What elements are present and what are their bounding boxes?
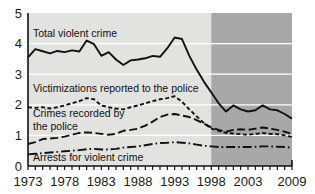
x-tick-label-2009: 2009 <box>278 174 307 189</box>
y-tick-label-2: 2 <box>15 97 22 112</box>
x-tick-label-1993: 1993 <box>160 174 189 189</box>
x-tick-label-1973: 1973 <box>14 174 43 189</box>
shaded-region <box>211 13 292 166</box>
annotation-crimes-recorded-line2: the police <box>33 120 78 132</box>
x-axis-tick-labels: 19731978198319881993199820032009 <box>14 174 307 189</box>
y-tick-label-4: 4 <box>15 36 22 51</box>
chart-canvas: 012345 19731978198319881993199820032009 … <box>0 0 315 194</box>
crime-rate-line-chart: 012345 19731978198319881993199820032009 … <box>0 0 315 194</box>
annotation-crimes-recorded-line1: Crimes recorded by <box>33 107 125 119</box>
y-tick-label-5: 5 <box>15 6 22 21</box>
annotation-arrests-for-violent-crime: Arrests for violent crime <box>33 151 143 163</box>
y-tick-label-1: 1 <box>15 128 22 143</box>
y-tick-label-3: 3 <box>15 67 22 82</box>
annotation-total-violent-crime: Total violent crime <box>33 27 117 39</box>
x-tick-label-2003: 2003 <box>234 174 263 189</box>
y-axis-tick-labels: 012345 <box>15 6 22 174</box>
annotation-victimizations-reported: Victimizations reported to the police <box>33 82 199 94</box>
x-tick-label-1983: 1983 <box>87 174 116 189</box>
x-tick-label-1988: 1988 <box>124 174 153 189</box>
y-tick-label-0: 0 <box>15 159 22 174</box>
x-tick-label-1978: 1978 <box>50 174 79 189</box>
x-tick-label-1998: 1998 <box>197 174 226 189</box>
